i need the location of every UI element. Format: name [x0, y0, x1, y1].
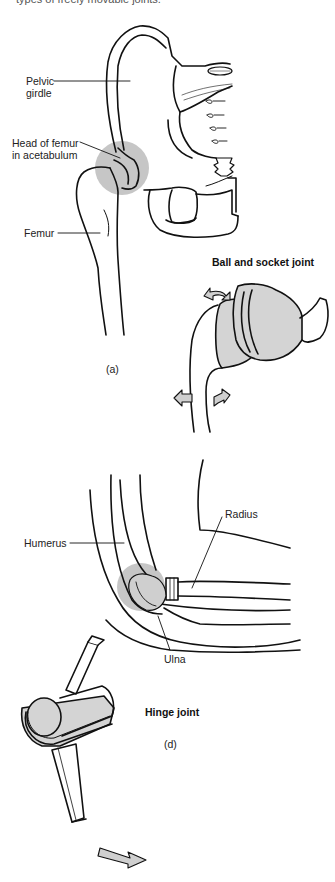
- figure-a-label: (a): [106, 363, 119, 375]
- ball-and-socket-title: Ball and socket joint: [212, 256, 314, 268]
- label-femur: Femur: [24, 227, 54, 239]
- hinge-joint-title: Hinge joint: [145, 706, 199, 718]
- label-head-of-femur-line2: in acetabulum: [12, 149, 79, 161]
- figure-d-label: (d): [164, 738, 177, 750]
- hinge-model: [22, 636, 146, 868]
- label-humerus: Humerus: [24, 537, 67, 549]
- label-head-of-femur: Head of femur in acetabulum: [12, 137, 79, 161]
- label-pelvic-girdle-line2: girdle: [26, 87, 54, 99]
- label-ulna: Ulna: [164, 653, 186, 665]
- label-pelvic-girdle: Pelvic girdle: [26, 75, 54, 99]
- elbow-drawing: [90, 460, 300, 652]
- pelvis-hip-drawing: [77, 26, 238, 335]
- hip-joint-highlight: [95, 141, 149, 195]
- label-pelvic-girdle-line1: Pelvic: [26, 75, 54, 87]
- ball-socket-model: [174, 284, 328, 432]
- label-head-of-femur-line1: Head of femur: [12, 137, 79, 149]
- label-radius: Radius: [225, 508, 258, 520]
